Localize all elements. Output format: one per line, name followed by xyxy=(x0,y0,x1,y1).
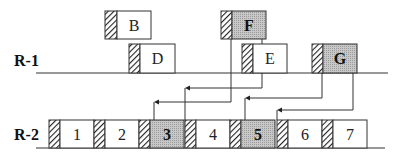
block-label: 4 xyxy=(209,126,217,143)
block-label: B xyxy=(129,17,140,34)
block-3: 3 xyxy=(139,120,184,148)
hatched-header xyxy=(185,120,196,148)
block-label: 1 xyxy=(73,126,81,143)
hatched-header xyxy=(105,11,117,39)
arrowhead-icon xyxy=(185,86,190,91)
hatched-header xyxy=(49,120,60,148)
arrow-path-4 xyxy=(279,73,353,110)
row-label-r2: R-2 xyxy=(14,126,39,143)
block-label: G xyxy=(334,50,347,67)
hatched-header xyxy=(230,120,241,148)
block-label: 2 xyxy=(118,126,126,143)
row-labels: R-1R-2 xyxy=(14,52,39,143)
hatched-header xyxy=(312,44,323,73)
blocks: BFDEG1234567 xyxy=(49,11,367,148)
block-4: 4 xyxy=(185,120,230,148)
row-label-r1: R-1 xyxy=(14,52,39,69)
block-label: 6 xyxy=(301,126,309,143)
block-d: D xyxy=(129,44,175,73)
block-6: 6 xyxy=(277,120,322,148)
block-label: E xyxy=(265,50,275,67)
block-label: F xyxy=(244,17,254,34)
block-1: 1 xyxy=(49,120,94,148)
hatched-header xyxy=(139,120,150,148)
hatched-header xyxy=(277,120,288,148)
hatched-header xyxy=(94,120,105,148)
block-7: 7 xyxy=(322,120,367,148)
block-label: D xyxy=(152,50,164,67)
block-label: 3 xyxy=(163,126,171,143)
hatched-header xyxy=(129,44,140,73)
block-f: F xyxy=(221,11,266,39)
block-b: B xyxy=(105,11,151,39)
block-e: E xyxy=(242,44,287,73)
arrowhead-icon xyxy=(245,96,250,101)
block-label: 7 xyxy=(346,126,354,143)
hatched-header xyxy=(242,44,253,73)
allocation-diagram: R-1R-2 BFDEG1234567 xyxy=(0,0,398,158)
block-g: G xyxy=(312,44,357,73)
block-label: 5 xyxy=(254,126,262,143)
arrow-path-3 xyxy=(247,73,322,98)
block-5: 5 xyxy=(230,120,275,148)
arrowhead-icon xyxy=(277,108,282,113)
arrowhead-icon xyxy=(154,100,159,105)
hatched-header xyxy=(221,11,232,39)
block-2: 2 xyxy=(94,120,139,148)
hatched-header xyxy=(322,120,333,148)
